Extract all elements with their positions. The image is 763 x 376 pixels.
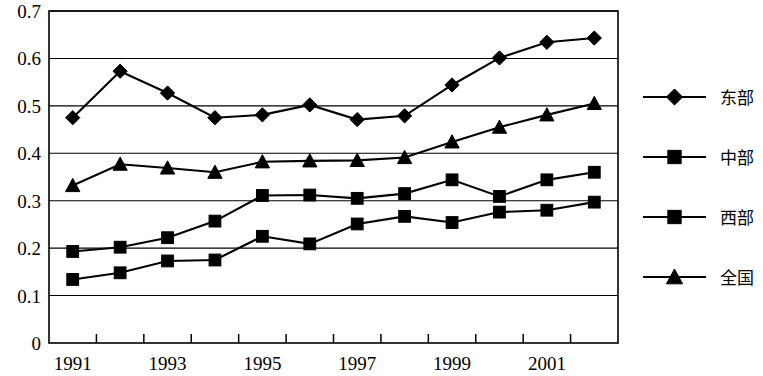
data-point-diamond-marker xyxy=(350,112,364,126)
data-point-diamond-marker xyxy=(587,31,601,45)
line-chart: 00.10.20.30.40.50.60.7199119931995199719… xyxy=(0,0,763,376)
legend-key-3-square-marker xyxy=(668,210,681,223)
y-tick-label: 0.1 xyxy=(17,286,41,307)
data-point-square-marker xyxy=(399,210,411,222)
x-tick-label: 1999 xyxy=(433,353,471,374)
legend-item-4[interactable]: 全国 xyxy=(643,268,754,288)
data-point-square-marker xyxy=(114,267,126,279)
data-point-square-marker xyxy=(209,215,221,227)
x-tick-label: 2001 xyxy=(528,353,566,374)
gridlines xyxy=(49,11,618,296)
y-tick-label: 0.6 xyxy=(17,48,41,69)
y-tick-label: 0.7 xyxy=(17,1,41,22)
data-point-diamond-marker xyxy=(445,78,459,92)
data-point-diamond-marker xyxy=(255,108,269,122)
plot-frame xyxy=(49,11,618,343)
y-tick-label: 0.3 xyxy=(17,191,41,212)
data-point-square-marker xyxy=(494,191,506,203)
data-point-diamond-marker xyxy=(160,86,174,100)
data-point-diamond-marker xyxy=(540,35,554,49)
data-point-triangle-marker xyxy=(587,96,601,109)
series-line-1 xyxy=(73,38,595,120)
data-point-square-marker xyxy=(351,218,363,230)
data-point-square-marker xyxy=(162,255,174,267)
chart-container: 00.10.20.30.40.50.60.7199119931995199719… xyxy=(0,0,763,376)
legend-key-1-diamond-marker xyxy=(666,89,682,105)
legend-item-2[interactable]: 中部 xyxy=(643,148,754,168)
legend-key-2-square-marker xyxy=(668,150,681,163)
y-axis-labels: 00.10.20.30.40.50.60.7 xyxy=(17,1,41,354)
data-point-triangle-marker xyxy=(66,178,80,191)
data-point-square-marker xyxy=(588,196,600,208)
data-point-square-marker xyxy=(304,189,316,201)
y-tick-label: 0.5 xyxy=(17,96,41,117)
legend: 东部中部西部全国 xyxy=(643,88,754,288)
data-point-square-marker xyxy=(494,206,506,218)
data-point-square-marker xyxy=(588,166,600,178)
data-point-square-marker xyxy=(114,241,126,253)
legend-item-1[interactable]: 东部 xyxy=(643,88,754,108)
y-tick-label: 0.4 xyxy=(17,143,41,164)
x-tick-label: 1997 xyxy=(338,353,376,374)
x-axis-labels: 199119931995199719992001 xyxy=(54,353,566,374)
data-point-square-marker xyxy=(67,246,79,258)
data-point-diamond-marker xyxy=(397,109,411,123)
legend-label-4: 全国 xyxy=(720,268,754,288)
data-point-square-marker xyxy=(304,238,316,250)
y-tick-label: 0 xyxy=(32,333,42,354)
data-point-square-marker xyxy=(399,188,411,200)
legend-label-3: 西部 xyxy=(720,208,754,228)
series-line-4 xyxy=(73,103,595,185)
x-tick-label: 1995 xyxy=(243,353,281,374)
legend-item-3[interactable]: 西部 xyxy=(643,208,754,228)
data-point-square-marker xyxy=(162,232,174,244)
data-point-square-marker xyxy=(541,204,553,216)
data-point-square-marker xyxy=(446,217,458,229)
data-point-square-marker xyxy=(351,192,363,204)
plot-area-border xyxy=(49,11,618,343)
data-point-square-marker xyxy=(256,190,268,202)
legend-label-2: 中部 xyxy=(720,148,754,168)
legend-label-1: 东部 xyxy=(720,88,754,108)
data-point-square-marker xyxy=(256,230,268,242)
data-point-square-marker xyxy=(67,274,79,286)
x-tick-label: 1993 xyxy=(149,353,187,374)
data-point-square-marker xyxy=(209,254,221,266)
series-1 xyxy=(66,31,602,127)
data-point-square-marker xyxy=(541,174,553,186)
data-point-diamond-marker xyxy=(303,98,317,112)
series-4 xyxy=(66,96,602,191)
data-point-diamond-marker xyxy=(492,51,506,65)
data-point-square-marker xyxy=(446,174,458,186)
data-point-diamond-marker xyxy=(208,111,222,125)
y-tick-label: 0.2 xyxy=(17,238,41,259)
x-tick-label: 1991 xyxy=(54,353,92,374)
x-axis-ticks xyxy=(96,334,570,343)
